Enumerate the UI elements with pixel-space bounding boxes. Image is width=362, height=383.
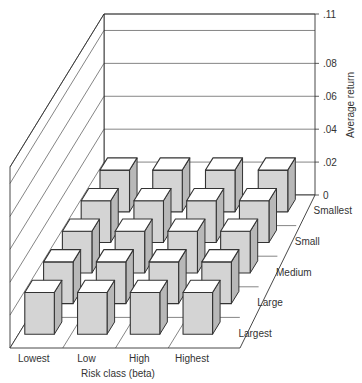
depth-category-label: Small <box>295 236 320 247</box>
x-category-label: High <box>129 353 150 364</box>
z-tick-label: 0 <box>323 190 329 201</box>
depth-category-label: Largest <box>238 328 272 339</box>
z-tick-label: .02 <box>323 157 337 168</box>
depth-category-label: Medium <box>276 267 312 278</box>
z-tick-label: .06 <box>323 91 337 102</box>
x-axis-labels: LowestLowHighHighest <box>18 353 209 364</box>
depth-category-label: Smallest <box>314 205 353 216</box>
bar <box>78 280 115 334</box>
x-category-label: Highest <box>175 353 209 364</box>
z-tick-label: .04 <box>323 124 337 135</box>
bar-chart-3d: .11.08.06.04.020 SmallestSmallMediumLarg… <box>0 0 362 383</box>
z-axis-title: Average return <box>345 72 356 138</box>
bar <box>130 280 167 334</box>
z-tick-label: .08 <box>323 58 337 69</box>
x-category-label: Lowest <box>18 353 50 364</box>
bar <box>183 280 220 334</box>
depth-category-label: Large <box>257 297 283 308</box>
z-tick-label: .11 <box>323 9 337 20</box>
bar <box>25 280 62 334</box>
x-category-label: Low <box>77 353 96 364</box>
x-axis-title: Risk class (beta) <box>81 368 155 379</box>
z-axis-ticks: .11.08.06.04.020 <box>323 9 337 201</box>
